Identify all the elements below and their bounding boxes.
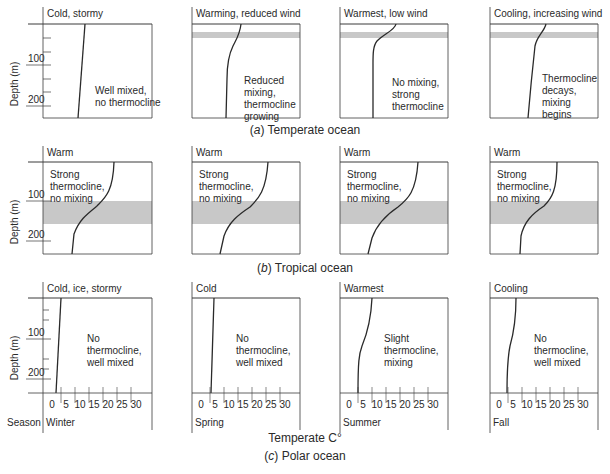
temp-tick-label: 15	[535, 399, 547, 410]
depth-axis-label: Depth (m)	[9, 336, 20, 380]
profile-panel: Warming, reduced windReducedmixing,therm…	[192, 7, 301, 122]
season-label: Spring	[195, 417, 224, 428]
panel-note: No mixing,	[392, 77, 439, 88]
profile-panel: WarmStrongthermocline,no mixing	[340, 146, 448, 254]
thermocline-band	[340, 201, 448, 224]
panel-note: Strong	[50, 169, 79, 180]
panel-note: Reduced	[244, 75, 284, 86]
depth-tick-label: 100	[28, 53, 45, 64]
temp-tick-label: 5	[360, 399, 366, 410]
temperature-axis-title: Temperate C°	[268, 431, 342, 445]
temp-tick-label: 0	[198, 399, 204, 410]
condition-label: Cold	[196, 283, 217, 294]
condition-label: Warmest	[344, 283, 384, 294]
panel-note: thermocline,	[347, 181, 401, 192]
panel-note: well mixed	[86, 357, 134, 368]
profile-panel: Warmest, low windNo mixing,strongthermoc…	[340, 7, 448, 118]
panel-note: mixing,	[244, 87, 276, 98]
temp-tick-label: 20	[399, 399, 411, 410]
temp-tick-label: 20	[251, 399, 263, 410]
temp-tick-label: 25	[413, 399, 425, 410]
depth-axis: 100200Depth (m)	[9, 310, 51, 380]
panel-note: Strong	[199, 169, 228, 180]
panel-note: thermocline	[244, 99, 296, 110]
row-caption: (c) Polar ocean	[264, 449, 345, 463]
season-axis-label: Season	[7, 417, 41, 428]
panel-note: no mixing	[347, 193, 390, 204]
panel-note: thermocline	[392, 101, 444, 112]
depth-tick-label: 200	[28, 94, 45, 105]
panel-note: growing	[244, 111, 279, 122]
temp-tick-label: 20	[549, 399, 561, 410]
temp-tick-label: 30	[130, 399, 142, 410]
ocean-thermocline-figure: Cold, stormyWell mixed,no thermoclineWar…	[0, 0, 610, 474]
profile-panel: WarmStrongthermocline,no mixing	[192, 146, 300, 254]
temp-tick-label: 0	[496, 399, 502, 410]
temp-tick-label: 0	[49, 399, 55, 410]
panel-note: no mixing	[50, 193, 93, 204]
temp-tick-label: 5	[510, 399, 516, 410]
temp-tick-label: 15	[88, 399, 100, 410]
temp-tick-label: 30	[427, 399, 439, 410]
temp-tick-label: 25	[563, 399, 575, 410]
row-temperate-ocean: Cold, stormyWell mixed,no thermoclineWar…	[9, 7, 602, 137]
panel-note: thermocline,	[384, 345, 438, 356]
temperature-profile-curve	[358, 298, 372, 393]
profile-panel: Cold, ice, stormyNothermocline,well mixe…	[28, 282, 152, 433]
condition-label: Warm	[344, 147, 370, 158]
temp-tick-label: 30	[279, 399, 291, 410]
temp-tick-label: 30	[577, 399, 589, 410]
condition-label: Warming, reduced wind	[196, 8, 301, 19]
panel-note: no thermocline	[95, 97, 161, 108]
temp-tick-label: 10	[521, 399, 533, 410]
depth-axis-label: Depth (m)	[9, 62, 20, 106]
depth-axis: 100200Depth (m)	[9, 38, 51, 106]
temperature-profile-curve	[56, 298, 61, 393]
profile-panel: WarmStrongthermocline,no mixing	[28, 146, 152, 254]
condition-label: Cold, stormy	[47, 8, 103, 19]
temperature-profile-curve	[211, 298, 214, 393]
temperature-profile-curve	[78, 24, 85, 118]
thermocline-band	[340, 32, 448, 38]
profile-panel: ColdNothermocline,well mixed051015202530…	[192, 282, 300, 433]
depth-tick-label: 200	[28, 367, 45, 378]
panel-note: Well mixed,	[95, 85, 147, 96]
panel-note: begins	[542, 109, 571, 120]
panel-note: decays,	[542, 85, 576, 96]
panel-note: No	[87, 333, 100, 344]
thermocline-band	[43, 201, 152, 224]
row-caption: (a) Temperate ocean	[250, 123, 361, 137]
panel-note: thermocline,	[50, 181, 104, 192]
profile-panel: CoolingNothermocline,well mixed051015202…	[490, 282, 598, 433]
row-caption: (b) Tropical ocean	[257, 261, 353, 275]
depth-tick-label: 100	[28, 189, 45, 200]
profile-panel: WarmStrongthermocline,no mixing	[490, 146, 598, 254]
panel-note: no mixing	[497, 193, 540, 204]
temp-tick-label: 15	[385, 399, 397, 410]
thermocline-band	[490, 201, 598, 224]
season-label: Fall	[493, 417, 509, 428]
profile-panel: WarmestSlightthermocline,mixing051015202…	[340, 282, 448, 433]
temp-tick-label: 10	[74, 399, 86, 410]
panel-note: thermocline,	[236, 345, 290, 356]
panel-note: thermocline,	[497, 181, 551, 192]
panel-note: Strong	[497, 169, 526, 180]
panel-note: strong	[392, 89, 420, 100]
temp-tick-label: 25	[116, 399, 128, 410]
panel-note: no mixing	[199, 193, 242, 204]
panel-note: thermocline,	[87, 345, 141, 356]
panel-note: Thermocline	[542, 73, 597, 84]
thermocline-band	[490, 32, 598, 38]
thermocline-band	[192, 201, 300, 224]
condition-label: Cold, ice, stormy	[47, 283, 121, 294]
condition-label: Cooling, increasing wind	[494, 8, 602, 19]
panel-note: Strong	[347, 169, 376, 180]
temp-tick-label: 5	[212, 399, 218, 410]
depth-axis-label: Depth (m)	[9, 200, 20, 244]
profile-panel: Cold, stormyWell mixed,no thermocline	[28, 7, 161, 118]
season-label: Summer	[343, 417, 381, 428]
panel-note: No	[236, 333, 249, 344]
panel-note: mixing	[542, 97, 571, 108]
condition-label: Warm	[494, 147, 520, 158]
panel-note: well mixed	[533, 357, 581, 368]
